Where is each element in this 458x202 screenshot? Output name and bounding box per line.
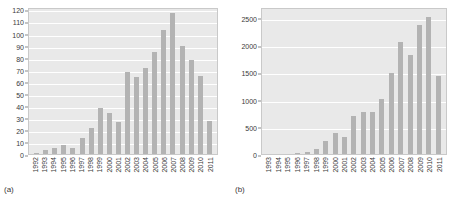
b-x-tick-label: 1997: [303, 157, 310, 173]
a-bar: [143, 68, 148, 154]
a-y-tick-label: 20: [16, 127, 24, 134]
a-bar: [61, 145, 66, 155]
a-bar: [98, 108, 103, 154]
b-bar: [295, 153, 300, 154]
b-bar: [417, 25, 422, 154]
a-bar: [70, 148, 75, 154]
a-bar: [89, 128, 94, 154]
b-bar: [342, 137, 347, 154]
b-bar: [323, 141, 328, 154]
b-x-tick-label: 1993: [265, 157, 272, 173]
b-x-tick-label: 2008: [407, 157, 414, 173]
a-x-tick-label: 1993: [41, 157, 48, 173]
b-x-tick-label: 2006: [388, 157, 395, 173]
b-bar: [379, 99, 384, 154]
b-x-tick-label: 2009: [417, 157, 424, 173]
b-bar: [333, 133, 338, 154]
a-y-tick-label: 110: [13, 19, 24, 26]
a-y-tick-label: 70: [16, 67, 24, 74]
a-bar: [34, 153, 39, 154]
a-x-tick-label: 2007: [170, 157, 177, 173]
a-y-tick-label: 120: [12, 7, 24, 14]
a-x-tick-label: 2000: [106, 157, 113, 173]
a-x-tick-label: 2008: [179, 157, 186, 173]
a-y-tick-label: 90: [16, 43, 24, 50]
b-y-tick-label: 2500: [241, 15, 257, 22]
panel-b-bar-series: [262, 9, 446, 154]
panel-b-y-axis: 05001000150020002500: [229, 0, 261, 202]
a-x-tick-label: 1997: [78, 157, 85, 173]
b-x-tick-label: 1999: [322, 157, 329, 173]
a-x-tick-label: 2003: [133, 157, 140, 173]
panel-a-y-axis: 0102030405060708090100110120: [0, 0, 28, 202]
b-x-tick-label: 1994: [275, 157, 282, 173]
a-y-tick-label: 60: [16, 79, 24, 86]
a-y-tick-label: 40: [16, 103, 24, 110]
b-y-tick-label: 1500: [241, 70, 257, 77]
a-bar: [107, 113, 112, 154]
b-bar: [426, 17, 431, 154]
a-x-tick-label: 2001: [115, 157, 122, 173]
a-x-tick-label: 2002: [124, 157, 131, 173]
b-x-tick-label: 2003: [360, 157, 367, 173]
b-x-tick-label: 2001: [341, 157, 348, 173]
figure-two-panel-bar-charts: 0102030405060708090100110120 19921993199…: [0, 0, 458, 202]
a-y-tick-label: 10: [16, 139, 24, 146]
a-bar: [80, 138, 85, 154]
b-bar: [389, 73, 394, 154]
b-bar: [370, 112, 375, 154]
panel-a: 0102030405060708090100110120 19921993199…: [0, 0, 229, 202]
b-bar: [436, 76, 441, 154]
a-x-tick-label: 2005: [152, 157, 159, 173]
a-bar: [161, 30, 166, 154]
b-bar: [408, 55, 413, 154]
a-y-tick-label: 100: [12, 31, 24, 38]
b-x-tick-label: 1998: [313, 157, 320, 173]
b-y-tick-label: 500: [245, 124, 257, 131]
b-x-tick-label: 1996: [294, 157, 301, 173]
b-x-tick-label: 2004: [369, 157, 376, 173]
b-y-tick-label: 2000: [241, 43, 257, 50]
a-x-tick-label: 2004: [142, 157, 149, 173]
panel-b-caption: (b): [235, 186, 245, 194]
a-x-tick-label: 1994: [50, 157, 57, 173]
b-bar: [305, 152, 310, 154]
a-x-tick-label: 1992: [32, 157, 39, 173]
a-x-tick-label: 1996: [69, 157, 76, 173]
b-bar: [314, 149, 319, 154]
panel-b-plot: [261, 8, 447, 155]
panel-a-plot: [28, 8, 218, 155]
a-x-tick-label: 2009: [188, 157, 195, 173]
a-bar: [180, 46, 185, 154]
b-x-tick-label: 2011: [436, 157, 443, 172]
a-x-tick-label: 2011: [207, 157, 214, 172]
panel-a-plot-area: [28, 8, 218, 155]
a-bar: [198, 76, 203, 154]
b-bar: [361, 112, 366, 154]
b-x-tick-label: 2005: [379, 157, 386, 173]
a-bar: [43, 150, 48, 154]
b-x-tick-label: 2007: [398, 157, 405, 173]
a-bar: [116, 122, 121, 154]
a-y-tick-label: 30: [16, 115, 24, 122]
b-bar: [398, 42, 403, 154]
a-x-tick-label: 2010: [197, 157, 204, 173]
b-y-tick-label: 0: [253, 152, 257, 159]
panel-a-bar-series: [29, 9, 217, 154]
panel-b: 05001000150020002500 1993199419951996199…: [229, 0, 458, 202]
panel-a-caption: (a): [4, 186, 14, 194]
panel-b-plot-area: [261, 8, 447, 155]
b-bar: [351, 116, 356, 154]
panel-b-x-axis: 1993199419951996199719981999200020012002…: [261, 157, 447, 197]
a-x-tick-label: 1999: [96, 157, 103, 173]
a-x-tick-label: 1995: [60, 157, 67, 173]
a-x-tick-label: 1998: [87, 157, 94, 173]
a-x-tick-label: 2006: [161, 157, 168, 173]
b-x-tick-label: 2010: [426, 157, 433, 173]
a-bar: [152, 52, 157, 154]
b-y-tick-label: 1000: [241, 97, 257, 104]
a-bar: [170, 13, 175, 154]
b-x-tick-label: 2002: [350, 157, 357, 173]
b-x-tick-label: 2000: [332, 157, 339, 173]
a-bar: [207, 121, 212, 154]
